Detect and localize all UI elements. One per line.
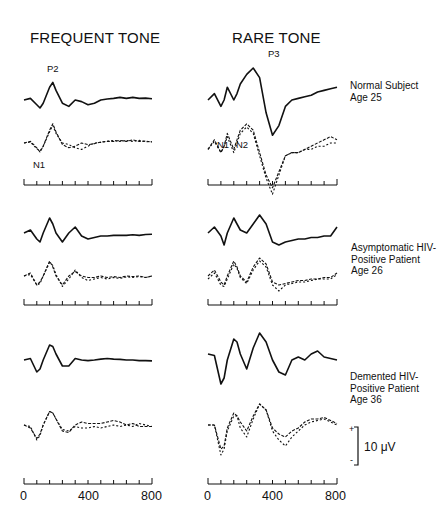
row-label-asymptomatic: Asymptomatic HIV- Positive Patient Age 2… — [351, 242, 436, 277]
scale-bar-label: 10 μV — [364, 440, 396, 454]
peak-label-n1-right: N1 — [217, 139, 229, 150]
peak-label-n1-left: N1 — [33, 159, 45, 170]
x-tick-right-800: 800 — [325, 489, 346, 503]
trace-dashed-2 — [24, 263, 152, 287]
peak-label-n2: N2 — [236, 139, 248, 150]
row-label-demented: Demented HIV- Positive Patient Age 36 — [350, 371, 419, 406]
scale-bar-plus: + — [349, 424, 354, 434]
scale-bar — [354, 427, 358, 465]
trace-solid — [24, 345, 152, 372]
trace-dashed-1 — [24, 412, 152, 439]
x-tick-left-800: 800 — [141, 489, 162, 503]
row-label-normal: Normal Subject Age 25 — [350, 80, 418, 103]
trace-solid — [24, 82, 152, 108]
trace-solid — [208, 215, 337, 245]
trace-dashed-1 — [208, 258, 337, 285]
trace-dashed-1 — [24, 261, 152, 285]
scale-bar-minus: - — [350, 455, 353, 465]
trace-solid — [24, 218, 152, 242]
trace-solid — [208, 333, 337, 384]
trace-dashed-2 — [24, 125, 152, 151]
trace-dashed-1 — [24, 124, 152, 152]
peak-label-p2: P2 — [47, 63, 59, 74]
x-tick-left-0: 0 — [20, 489, 27, 503]
trace-solid — [208, 68, 337, 135]
x-tick-left-400: 400 — [78, 489, 99, 503]
x-tick-right-0: 0 — [204, 489, 211, 503]
trace-dashed-2 — [24, 412, 152, 441]
peak-label-p3: P3 — [268, 48, 280, 59]
trace-dashed-1 — [208, 404, 337, 449]
x-tick-right-400: 400 — [262, 489, 283, 503]
